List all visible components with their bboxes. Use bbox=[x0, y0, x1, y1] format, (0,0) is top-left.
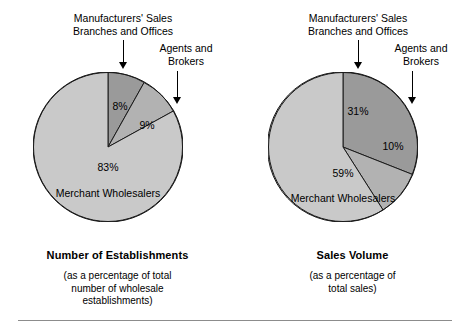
caption-title-establishments: Number of Establishments bbox=[0, 249, 235, 261]
caption-title-sales-volume: Sales Volume bbox=[235, 249, 470, 261]
arrow-shaft bbox=[123, 40, 124, 63]
callout-label-agents-and-brokers: Agents and Brokers bbox=[140, 42, 232, 67]
panel-sales-volume: Manufacturers' Sales Branches and Office… bbox=[235, 0, 470, 333]
pie-value-agents: 10% bbox=[382, 140, 403, 152]
pie-label-merchant-wholesalers: Merchant Wholesalers bbox=[291, 192, 395, 204]
arrow-to-manufacturers-slice bbox=[119, 40, 128, 70]
pie-value-manufacturers: 31% bbox=[347, 105, 368, 117]
pie-chart-establishments: 8% 9% 83% Merchant Wholesalers bbox=[33, 72, 183, 222]
pie-label-merchant-wholesalers: Merchant Wholesalers bbox=[56, 187, 160, 199]
pie-svg: 8% 9% 83% Merchant Wholesalers bbox=[33, 72, 183, 222]
pie-value-agents: 9% bbox=[139, 119, 154, 131]
pie-value-manufacturers: 8% bbox=[112, 100, 127, 112]
callout-label-manufacturers-sales-branches: Manufacturers' Sales Branches and Office… bbox=[28, 12, 218, 37]
pie-value-merchant: 59% bbox=[332, 167, 353, 179]
callout-label-agents-and-brokers: Agents and Brokers bbox=[375, 42, 467, 67]
arrow-head-icon bbox=[354, 62, 362, 69]
callout-label-manufacturers-sales-branches: Manufacturers' Sales Branches and Office… bbox=[263, 12, 453, 37]
pie-chart-sales-volume: 31% 10% 59% Merchant Wholesalers bbox=[268, 72, 418, 222]
pie-value-merchant: 83% bbox=[97, 161, 118, 173]
footer-divider bbox=[18, 320, 452, 321]
arrow-shaft bbox=[358, 40, 359, 63]
caption-subtitle-establishments: (as a percentage of total number of whol… bbox=[20, 270, 215, 308]
pie-svg: 31% 10% 59% Merchant Wholesalers bbox=[268, 72, 418, 222]
caption-subtitle-sales-volume: (as a percentage of total sales) bbox=[255, 270, 450, 295]
pie-chart-figure: { "figure": { "background": "#ffffff", "… bbox=[0, 0, 470, 333]
arrow-to-manufacturers-slice bbox=[354, 40, 363, 70]
arrow-head-icon bbox=[119, 62, 127, 69]
panel-number-of-establishments: Manufacturers' Sales Branches and Office… bbox=[0, 0, 235, 333]
